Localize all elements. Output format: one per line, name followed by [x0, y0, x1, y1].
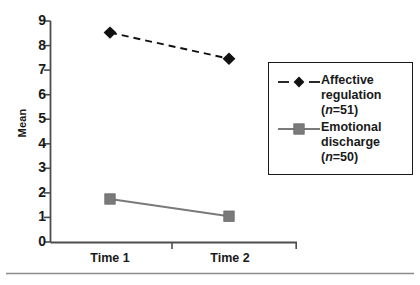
series-affective-regulation: [104, 26, 236, 65]
legend-n-value: =50): [333, 150, 358, 164]
y-tick-label-8: 8: [30, 38, 46, 52]
x-axis-ticks: [172, 243, 296, 250]
data-point-affective-regulation-time-1: [104, 26, 117, 38]
x-tick-label-time-2: Time 2: [185, 251, 275, 265]
y-tick-label-4: 4: [30, 136, 46, 150]
y-tick-label-9: 9: [30, 13, 46, 27]
y-tick-label-5: 5: [30, 111, 46, 125]
legend-sample-size: (n=50): [321, 150, 358, 164]
legend-entry-emotional-discharge: Emotional discharge (n=50): [277, 120, 381, 165]
legend-n-symbol: n: [325, 103, 333, 117]
legend-label-emotional-discharge: Emotional discharge (n=50): [321, 120, 381, 165]
legend-label-affective-regulation: Affective regulation (n=51): [321, 73, 381, 118]
legend-n-value: =51): [333, 103, 358, 117]
y-tick-label-3: 3: [30, 160, 46, 174]
data-point-affective-regulation-time-2: [223, 53, 236, 65]
figure: 9 8 7 6 5 4 3 2 1 0 Mean Time 1 Time 2 A…: [0, 0, 420, 285]
data-point-emotional-discharge-time-1: [105, 194, 115, 204]
y-tick-label-1: 1: [30, 209, 46, 223]
legend-key-diamond-dashed-icon: [277, 74, 321, 90]
y-axis-title: Mean: [16, 93, 28, 153]
series-affective-regulation-line: [110, 33, 229, 59]
legend-n-symbol: n: [325, 150, 333, 164]
legend: Affective regulation (n=51) Emotional di…: [268, 62, 413, 175]
legend-line-2: discharge: [321, 135, 380, 149]
x-tick-label-time-1: Time 1: [65, 251, 155, 265]
legend-line-2: regulation: [321, 88, 381, 102]
legend-sample-size: (n=51): [321, 103, 358, 117]
legend-key-square-solid-icon: [277, 121, 321, 137]
series-emotional-discharge: [105, 194, 234, 222]
legend-line-1: Affective: [321, 73, 374, 87]
data-point-emotional-discharge-time-2: [224, 211, 234, 221]
legend-line-1: Emotional: [321, 120, 381, 134]
y-tick-label-6: 6: [30, 87, 46, 101]
y-tick-label-7: 7: [30, 62, 46, 76]
legend-entry-affective-regulation: Affective regulation (n=51): [277, 73, 381, 118]
y-axis-tick-labels: 9 8 7 6 5 4 3 2 1 0: [26, 0, 46, 285]
y-tick-label-0: 0: [30, 234, 46, 248]
series-emotional-discharge-line: [110, 199, 229, 216]
y-tick-label-2: 2: [30, 185, 46, 199]
